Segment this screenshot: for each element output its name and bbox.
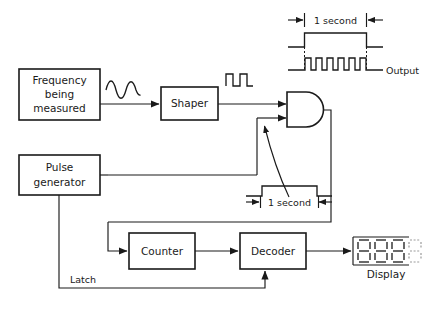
display-digit-2	[375, 240, 387, 262]
label-decoder: Decoder	[251, 245, 296, 257]
gate-window-waveform	[246, 186, 332, 196]
label-pulse-generator-line2: generator	[34, 176, 87, 188]
display-digit-3	[392, 240, 404, 262]
shaper-output-waveform	[226, 74, 253, 86]
label-frequency-line3: measured	[33, 102, 85, 114]
label-frequency-line2: being	[45, 88, 74, 100]
label-latch: Latch	[70, 274, 96, 285]
diagram-canvas: Frequency being measured Shaper Pulse ge…	[0, 0, 432, 310]
display-digit-1	[358, 240, 370, 262]
frequency-counter-diagram: Frequency being measured Shaper Pulse ge…	[0, 0, 432, 310]
label-gate-one-second: 1 second	[268, 197, 311, 208]
label-display: Display	[367, 268, 406, 280]
display-digit-4	[409, 240, 421, 262]
label-frequency-line1: Frequency	[32, 74, 86, 86]
label-shaper: Shaper	[171, 97, 209, 109]
sine-input-waveform	[106, 81, 141, 98]
timing-output-waveform	[288, 58, 383, 70]
label-pulse-generator-line1: Pulse	[46, 161, 74, 173]
label-counter: Counter	[141, 245, 184, 257]
display-seven-segment	[353, 237, 421, 265]
wire-bus-into-counter	[108, 222, 127, 251]
label-output: Output	[386, 65, 419, 76]
timing-gate-waveform	[288, 33, 383, 47]
label-timing-one-second: 1 second	[314, 15, 357, 26]
and-gate[interactable]	[287, 92, 324, 127]
